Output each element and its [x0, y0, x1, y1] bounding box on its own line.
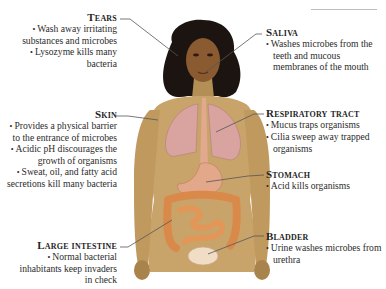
label-title: Skin — [0, 109, 117, 120]
label-title: Large intestine — [10, 240, 117, 251]
label-title: Bladder — [266, 231, 384, 242]
label-title: Saliva — [266, 27, 384, 38]
bullet-item: •Sweat, oil, and fatty acid secretions k… — [0, 166, 117, 189]
bullet-item: •Lysozyme kills many bacteria — [4, 46, 117, 69]
bullet-item: •Wash away irritating substances and mic… — [4, 23, 117, 46]
bullet-item: •Urine washes microbes from urethra — [266, 242, 384, 265]
label-title: Tears — [4, 12, 117, 23]
bullet-item: •Mucus traps organisms — [266, 119, 384, 131]
bullet-item: •Normal bacterial inhabitants keep invad… — [10, 251, 117, 285]
label-title: Respiratory tract — [266, 108, 384, 119]
bullet-item: •Washes microbes from the teeth and muco… — [266, 38, 384, 72]
label-skin: Skin •Provides a physical barrier to the… — [0, 109, 117, 189]
label-respiratory-tract: Respiratory tract •Mucus traps organisms… — [266, 108, 384, 154]
bullet-item: •Acidic pH discourages the growth of org… — [0, 143, 117, 166]
label-large-intestine: Large intestine •Normal bacterial inhabi… — [10, 240, 117, 285]
bullet-item: •Cilia sweep away trapped organisms — [266, 131, 384, 154]
bladder — [188, 247, 218, 265]
face — [186, 38, 220, 82]
bullet-item: •Acid kills organisms — [266, 180, 384, 192]
label-bladder: Bladder •Urine washes microbes from uret… — [266, 231, 384, 265]
label-tears: Tears •Wash away irritating substances a… — [4, 12, 117, 69]
bullet-item: •Provides a physical barrier to the entr… — [0, 120, 117, 143]
label-saliva: Saliva •Washes microbes from the teeth a… — [266, 27, 384, 72]
label-title: Stomach — [266, 169, 384, 180]
label-stomach: Stomach •Acid kills organisms — [266, 169, 384, 192]
